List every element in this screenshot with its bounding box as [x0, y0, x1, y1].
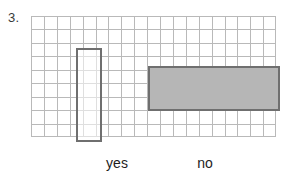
category-label-no: no	[176, 155, 234, 172]
category-label-yes: yes	[88, 155, 146, 172]
bar-yes	[76, 48, 102, 142]
grid-plot-area	[31, 16, 276, 137]
worksheet-problem: 3. yes no	[0, 0, 296, 187]
problem-number: 3.	[8, 11, 19, 25]
grid-border-bottom	[31, 136, 276, 137]
bar-no	[148, 66, 280, 111]
